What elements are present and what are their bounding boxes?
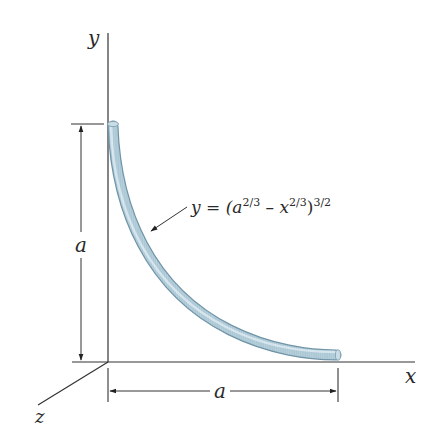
equation-leader-arrow bbox=[151, 207, 187, 231]
rod-right-end bbox=[335, 350, 340, 360]
rod-top-end bbox=[108, 121, 119, 126]
astroid-rod-diagram: y x z a a y = (a2/3 – x2/3)3/2 bbox=[0, 0, 442, 441]
horizontal-dimension-label: a bbox=[214, 379, 226, 403]
eq-minus-x: – x bbox=[260, 197, 289, 217]
eq-close: ) bbox=[307, 197, 314, 217]
eq-exp3: 3/2 bbox=[313, 196, 331, 209]
x-axis-label: x bbox=[405, 364, 416, 388]
z-axis-label: z bbox=[34, 406, 45, 427]
eq-exp1: 2/3 bbox=[242, 196, 260, 209]
eq-exp2: 2/3 bbox=[289, 196, 307, 209]
curve-equation: y = (a2/3 – x2/3)3/2 bbox=[190, 196, 331, 217]
eq-prefix: y = (a bbox=[190, 197, 242, 217]
z-axis bbox=[38, 362, 108, 405]
vertical-dimension-label: a bbox=[75, 233, 87, 257]
curved-rod bbox=[108, 121, 341, 360]
y-axis-label: y bbox=[87, 26, 100, 50]
